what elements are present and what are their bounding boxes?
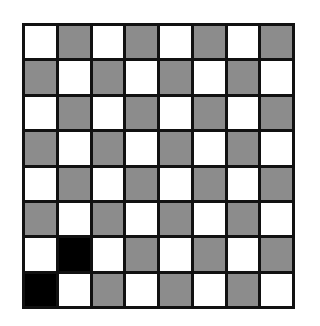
grid-cell-r4-c7 <box>261 168 292 200</box>
grid-cell-r7-c4 <box>160 274 191 306</box>
grid-cell-r4-c2 <box>93 168 124 200</box>
grid-cell-r0-c3 <box>126 26 157 58</box>
grid-cell-r7-c0 <box>25 274 56 306</box>
grid-cell-r3-c6 <box>228 132 259 164</box>
grid-cell-r7-c6 <box>228 274 259 306</box>
grid-cell-r6-c5 <box>194 238 225 270</box>
grid-cell-r1-c5 <box>194 61 225 93</box>
grid-cell-r2-c1 <box>59 97 90 129</box>
grid-cell-r0-c1 <box>59 26 90 58</box>
grid-cell-r2-c3 <box>126 97 157 129</box>
grid-cell-r1-c2 <box>93 61 124 93</box>
grid-cell-r2-c6 <box>228 97 259 129</box>
grid-cell-r2-c7 <box>261 97 292 129</box>
grid-cell-r0-c2 <box>93 26 124 58</box>
grid-cell-r4-c4 <box>160 168 191 200</box>
grid-cell-r3-c0 <box>25 132 56 164</box>
grid-cell-r6-c2 <box>93 238 124 270</box>
grid-cell-r5-c4 <box>160 203 191 235</box>
grid-cell-r1-c6 <box>228 61 259 93</box>
grid-cell-r7-c5 <box>194 274 225 306</box>
grid-cell-r3-c7 <box>261 132 292 164</box>
grid-cell-r7-c2 <box>93 274 124 306</box>
grid-cell-r0-c6 <box>228 26 259 58</box>
grid-cell-r6-c1 <box>59 238 90 270</box>
grid-cell-r3-c3 <box>126 132 157 164</box>
grid-cell-r0-c0 <box>25 26 56 58</box>
grid-cell-r3-c2 <box>93 132 124 164</box>
grid-cell-r4-c1 <box>59 168 90 200</box>
grid-cell-r7-c3 <box>126 274 157 306</box>
grid-cell-r2-c2 <box>93 97 124 129</box>
grid-cell-r3-c4 <box>160 132 191 164</box>
grid-cell-r3-c5 <box>194 132 225 164</box>
checkerboard-grid <box>22 23 295 309</box>
grid-cell-r1-c4 <box>160 61 191 93</box>
grid-cell-r7-c7 <box>261 274 292 306</box>
grid-cell-r4-c6 <box>228 168 259 200</box>
grid-cell-r3-c1 <box>59 132 90 164</box>
grid-cell-r0-c5 <box>194 26 225 58</box>
grid-cell-r5-c6 <box>228 203 259 235</box>
grid-cell-r5-c5 <box>194 203 225 235</box>
grid-cell-r6-c3 <box>126 238 157 270</box>
grid-cell-r4-c3 <box>126 168 157 200</box>
grid-cell-r6-c4 <box>160 238 191 270</box>
grid-cell-r6-c0 <box>25 238 56 270</box>
grid-cell-r1-c7 <box>261 61 292 93</box>
grid-cell-r0-c7 <box>261 26 292 58</box>
grid-cell-r5-c0 <box>25 203 56 235</box>
grid-cell-r1-c1 <box>59 61 90 93</box>
grid-cell-r5-c7 <box>261 203 292 235</box>
grid-cell-r2-c5 <box>194 97 225 129</box>
grid-cell-r7-c1 <box>59 274 90 306</box>
grid-cell-r6-c6 <box>228 238 259 270</box>
grid-cell-r5-c1 <box>59 203 90 235</box>
grid-cell-r0-c4 <box>160 26 191 58</box>
grid-cell-r5-c3 <box>126 203 157 235</box>
grid-cell-r6-c7 <box>261 238 292 270</box>
grid-cell-r2-c0 <box>25 97 56 129</box>
grid-cell-r1-c3 <box>126 61 157 93</box>
grid-cell-r2-c4 <box>160 97 191 129</box>
grid-cell-r4-c5 <box>194 168 225 200</box>
grid-cell-r4-c0 <box>25 168 56 200</box>
grid-cell-r5-c2 <box>93 203 124 235</box>
grid-cell-r1-c0 <box>25 61 56 93</box>
